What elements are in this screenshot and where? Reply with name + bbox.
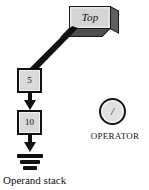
operator-symbol: / xyxy=(111,106,114,117)
top-pointer-box: Top xyxy=(69,6,111,29)
stack-bottom-ground-icon xyxy=(14,150,46,172)
operand-stack-caption: Operand stack xyxy=(3,174,66,186)
ground-bar-1 xyxy=(20,160,40,164)
ground-bar-0 xyxy=(17,154,43,158)
operand-stack-diagram: Top 5 10 Operand stack / OPERATOR xyxy=(0,0,149,190)
stack-cell-value: 5 xyxy=(27,76,32,85)
top-box-front-face: Top xyxy=(69,6,111,29)
ground-bar-2 xyxy=(23,166,37,170)
stack-cell-1: 10 xyxy=(17,110,42,135)
stack-cell-0: 5 xyxy=(17,68,42,93)
top-box-right-face xyxy=(110,6,119,34)
top-box-bottom-face xyxy=(60,28,111,37)
operator-token-circle: / xyxy=(99,98,126,125)
stack-connector-arrow-0-icon xyxy=(23,92,37,110)
operator-label: OPERATOR xyxy=(85,131,145,141)
stack-cell-value: 10 xyxy=(25,118,34,127)
top-pointer-label: Top xyxy=(82,12,99,23)
